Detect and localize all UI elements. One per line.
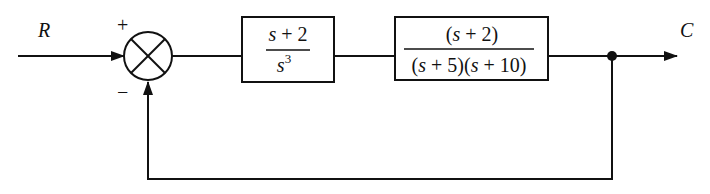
block-diagram: R + − s + 2 s3 (s + 2) (s + 5)(s + 10) C xyxy=(0,0,710,194)
transfer-block-g1: s + 2 s3 xyxy=(242,17,334,82)
minus-sign: − xyxy=(117,81,128,103)
input-label-r: R xyxy=(37,19,50,41)
output-label-c: C xyxy=(680,19,694,41)
transfer-block-g2: (s + 2) (s + 5)(s + 10) xyxy=(395,17,548,80)
block-g2-denominator: (s + 5)(s + 10) xyxy=(412,54,527,77)
block-g1-numerator: s + 2 xyxy=(268,23,307,45)
plus-sign: + xyxy=(117,14,128,36)
block-g2-numerator: (s + 2) xyxy=(446,23,498,46)
summing-junction xyxy=(124,32,172,80)
